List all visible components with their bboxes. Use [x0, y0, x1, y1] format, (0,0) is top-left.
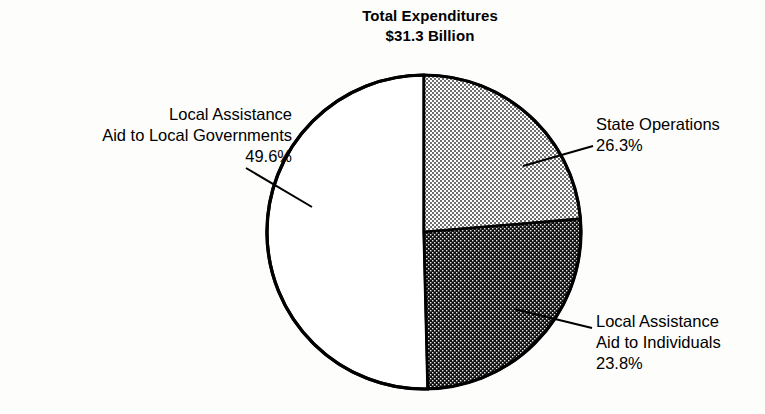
- slice-label-local-governments-line-1: Local Assistance: [0, 104, 292, 125]
- slice-value-local-governments: 49.6%: [0, 146, 292, 167]
- slice-label-individuals: Local Assistance Aid to Individuals 23.8…: [596, 311, 721, 374]
- slice-label-individuals-line-2: Aid to Individuals: [596, 332, 721, 353]
- pie-slice-individuals: [424, 219, 581, 389]
- slice-label-individuals-line-1: Local Assistance: [596, 311, 721, 332]
- slice-value-individuals: 23.8%: [596, 353, 721, 374]
- slice-label-state-operations: State Operations 26.3%: [596, 114, 720, 156]
- slice-value-state-operations: 26.3%: [596, 135, 720, 156]
- pie-slice-state-operations: [424, 75, 580, 232]
- slice-label-state-operations-line-1: State Operations: [596, 114, 720, 135]
- slice-label-local-governments-line-2: Aid to Local Governments: [0, 125, 292, 146]
- slice-label-local-governments: Local Assistance Aid to Local Government…: [0, 104, 292, 167]
- pie-chart-figure: Total Expenditures $31.3 Billion: [0, 0, 765, 414]
